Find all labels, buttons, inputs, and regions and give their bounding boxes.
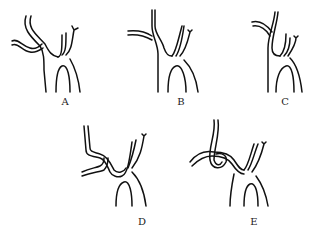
panel-d-drawing <box>82 126 146 206</box>
panel-c-drawing <box>252 12 302 92</box>
panel-label-e: E <box>250 216 257 227</box>
diagram-drawing <box>0 0 319 241</box>
vessel-variants-figure: A B C D E <box>0 0 319 241</box>
panel-label-a: A <box>61 96 68 107</box>
panel-label-d: D <box>138 216 146 227</box>
panel-label-b: B <box>177 96 184 107</box>
panel-label-c: C <box>281 96 289 107</box>
panel-b-drawing <box>128 10 198 92</box>
panel-a-drawing <box>12 16 80 92</box>
panel-e-drawing <box>190 120 268 206</box>
